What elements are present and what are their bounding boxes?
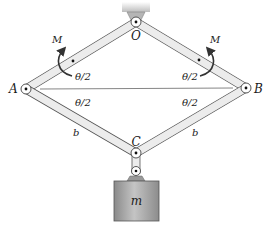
label-b-right: b [192, 127, 198, 138]
label-b-left: b [73, 127, 79, 138]
line-AB [40, 88, 233, 89]
label-theta-upper-right: θ/2 [182, 71, 198, 82]
bar-OA-midpoint-dot [72, 60, 75, 63]
label-theta-upper-left: θ/2 [75, 71, 91, 82]
mass-block: m [114, 181, 159, 221]
label-theta-lower-right: θ/2 [182, 97, 198, 108]
label-M-left: M [51, 34, 63, 45]
pin-hanger [132, 167, 141, 176]
pin-O [131, 17, 141, 27]
label-B: B [253, 82, 263, 96]
label-O: O [131, 29, 141, 43]
pin-B [241, 83, 251, 93]
label-theta-lower-left: θ/2 [75, 97, 91, 108]
label-M-right: M [209, 34, 221, 45]
bar-OB-midpoint-dot [198, 59, 201, 62]
pin-C [131, 148, 141, 158]
label-C: C [131, 135, 140, 149]
mass-label: m [131, 194, 142, 208]
mechanism-diagram: m O A B C M M θ/2 θ/2 θ/2 θ/2 b b [0, 0, 267, 228]
pin-A [21, 84, 31, 94]
label-A: A [8, 82, 18, 96]
